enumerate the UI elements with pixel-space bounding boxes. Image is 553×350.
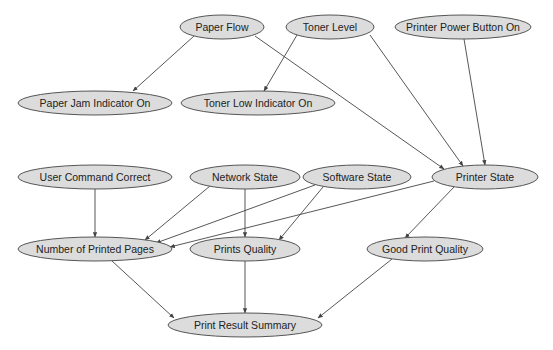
arrow-connector bbox=[264, 35, 297, 91]
edge-good-quality-to-result-summary bbox=[318, 259, 392, 318]
node-paper-jam[interactable]: Paper Jam Indicator On bbox=[18, 91, 172, 115]
node-network-state[interactable]: Network State bbox=[190, 165, 300, 189]
node-label: Toner Level bbox=[303, 21, 357, 33]
arrow-connector bbox=[133, 36, 194, 91]
node-num-pages[interactable]: Number of Printed Pages bbox=[18, 237, 172, 261]
node-paper-flow[interactable]: Paper Flow bbox=[180, 15, 264, 39]
node-label: Toner Low Indicator On bbox=[204, 97, 313, 109]
edge-toner-level-to-printer-state bbox=[370, 35, 463, 166]
node-label: User Command Correct bbox=[40, 171, 151, 183]
node-label: Number of Printed Pages bbox=[36, 243, 154, 255]
node-label: Print Result Summary bbox=[194, 319, 297, 331]
node-label: Software State bbox=[323, 171, 392, 183]
node-software-state[interactable]: Software State bbox=[303, 165, 411, 189]
node-label: Prints Quality bbox=[214, 243, 277, 255]
arrow-connector bbox=[464, 39, 485, 165]
node-printer-power[interactable]: Printer Power Button On bbox=[395, 15, 531, 39]
nodes-layer: Paper FlowToner LevelPrinter Power Butto… bbox=[18, 15, 538, 337]
edge-software-state-to-num-pages bbox=[156, 185, 315, 243]
node-label: Paper Jam Indicator On bbox=[40, 97, 151, 109]
edge-num-pages-to-result-summary bbox=[112, 261, 174, 318]
arrow-connector bbox=[145, 186, 210, 240]
arrow-connector bbox=[170, 181, 434, 247]
node-label: Paper Flow bbox=[195, 21, 249, 33]
edge-printer-state-to-good-quality bbox=[405, 187, 454, 238]
arrow-connector bbox=[370, 35, 463, 166]
bayesian-network-diagram: Paper FlowToner LevelPrinter Power Butto… bbox=[0, 0, 553, 350]
node-toner-level[interactable]: Toner Level bbox=[286, 15, 374, 39]
node-prints-quality[interactable]: Prints Quality bbox=[190, 237, 300, 261]
node-label: Printer Power Button On bbox=[406, 21, 520, 33]
node-label: Printer State bbox=[456, 171, 515, 183]
arrow-connector bbox=[112, 261, 174, 318]
node-user-command[interactable]: User Command Correct bbox=[18, 165, 172, 189]
edge-toner-level-to-toner-low bbox=[264, 35, 297, 91]
node-printer-state[interactable]: Printer State bbox=[432, 165, 538, 189]
node-label: Good Print Quality bbox=[382, 243, 469, 255]
node-result-summary[interactable]: Print Result Summary bbox=[168, 313, 322, 337]
edge-paper-flow-to-paper-jam bbox=[133, 36, 194, 91]
edge-network-state-to-num-pages bbox=[145, 186, 210, 240]
edge-printer-state-to-num-pages bbox=[170, 181, 434, 247]
arrow-connector bbox=[405, 187, 454, 238]
arrow-connector bbox=[279, 187, 323, 240]
node-good-quality[interactable]: Good Print Quality bbox=[367, 237, 483, 261]
node-label: Network State bbox=[212, 171, 278, 183]
arrow-connector bbox=[156, 185, 315, 243]
edge-printer-power-to-printer-state bbox=[464, 39, 485, 165]
node-toner-low[interactable]: Toner Low Indicator On bbox=[181, 91, 335, 115]
arrow-connector bbox=[318, 259, 392, 318]
edge-software-state-to-prints-quality bbox=[279, 187, 323, 240]
